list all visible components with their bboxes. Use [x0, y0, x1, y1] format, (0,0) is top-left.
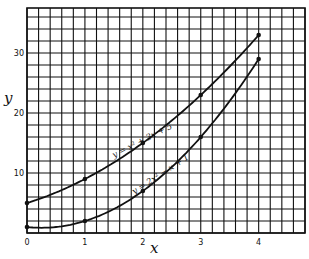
- chart: 01234102030 x y y = x² + 3x + 5y = 2x² −…: [0, 0, 309, 259]
- x-tick-label: 3: [198, 238, 203, 247]
- curve-label-2: y = 2x² − x + 1: [129, 152, 191, 197]
- x-tick-label: 4: [256, 238, 261, 247]
- data-point: [256, 33, 261, 38]
- data-point: [83, 177, 88, 182]
- curve-label-1: y = x² + 3x + 5: [109, 121, 173, 160]
- data-point: [83, 219, 88, 224]
- y-tick-label: 20: [14, 109, 24, 118]
- x-axis-label: x: [150, 239, 159, 257]
- x-tick-label: 1: [82, 238, 87, 247]
- y-tick-label: 30: [14, 49, 24, 58]
- data-point: [256, 57, 261, 62]
- data-point: [25, 225, 30, 230]
- y-tick-label: 10: [14, 169, 24, 178]
- y-axis-label: y: [3, 89, 13, 107]
- grid: [27, 8, 305, 233]
- data-point: [198, 93, 203, 98]
- data-point: [25, 201, 30, 206]
- x-tick-label: 2: [140, 238, 145, 247]
- data-point: [198, 135, 203, 140]
- x-tick-label: 0: [24, 238, 29, 247]
